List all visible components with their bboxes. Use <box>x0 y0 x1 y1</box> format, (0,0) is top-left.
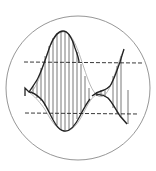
waveform-curve-second-fall <box>96 95 127 124</box>
waveform-curve-second-rise <box>92 49 124 96</box>
waveform-curve-rise <box>25 31 79 96</box>
enclosing-circle <box>6 16 150 160</box>
upper-threshold-line <box>24 62 142 63</box>
waveform-diagram <box>0 0 156 171</box>
lower-threshold-line <box>25 113 139 114</box>
